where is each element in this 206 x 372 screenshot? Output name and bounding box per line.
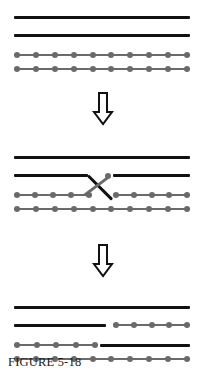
stage-1-paired-homologs-chromatid-3-bead bbox=[71, 52, 77, 58]
figure-caption: FIGURE 5-18 bbox=[8, 355, 81, 370]
stage-2-chiasma-crossover-chromatid-3-bead bbox=[149, 192, 155, 198]
stage-3-recombinant-chromatids-chromatid-4-bead bbox=[184, 356, 190, 362]
stage-3-recombinant-chromatids-chromatid-3-segment-1 bbox=[100, 344, 190, 347]
stage-3-recombinant-chromatids-chromatid-2-bead bbox=[184, 322, 190, 328]
stage-3-recombinant-chromatids-chromatid-2-bead bbox=[131, 322, 137, 328]
stage-2-chiasma-crossover-chromatid-3-bead bbox=[113, 192, 119, 198]
stage-2-chiasma-crossover-chromatid-4-bead bbox=[90, 206, 96, 212]
stage-3-recombinant-chromatids-chromatid-4-bead bbox=[127, 356, 133, 362]
stage-2-chiasma-crossover-chromatid-4-bead bbox=[14, 206, 20, 212]
down-arrow-outline-icon-2 bbox=[92, 244, 114, 278]
stage-1-paired-homologs-chromatid-3-bead bbox=[127, 52, 133, 58]
stage-1-paired-homologs-chromatid-4-bead bbox=[108, 66, 114, 72]
stage-3-recombinant-chromatids-chromatid-4-bead bbox=[90, 356, 96, 362]
stage-2-chiasma-crossover-chromatid-2-segment-1 bbox=[113, 174, 190, 177]
stage-1-paired-homologs-chromatid-4-bead bbox=[14, 66, 20, 72]
stage-3-recombinant-chromatids-chromatid-2-bead bbox=[166, 322, 172, 328]
stage-2-chiasma-crossover-chromatid-4-bead bbox=[52, 206, 58, 212]
stage-1-paired-homologs-chromatid-3-line-0 bbox=[14, 54, 190, 56]
stage-1-paired-homologs-chromatid-3-bead bbox=[52, 52, 58, 58]
panel-stage-2-chiasma-crossover bbox=[0, 140, 206, 232]
stage-3-recombinant-chromatids-chromatid-1-segment-0 bbox=[14, 306, 190, 309]
stage-1-paired-homologs-chromatid-4-bead bbox=[52, 66, 58, 72]
stage-3-recombinant-chromatids-chromatid-3-bead bbox=[14, 342, 20, 348]
stage-1-paired-homologs-chromatid-4-line-0 bbox=[14, 68, 190, 70]
stage-2-chiasma-crossover-chromatid-3-bead bbox=[131, 192, 137, 198]
stage-3-recombinant-chromatids-chromatid-4-bead bbox=[165, 356, 171, 362]
stage-2-chiasma-crossover-chromatid-3-bead bbox=[50, 192, 56, 198]
stage-2-chiasma-crossover-chromatid-4-bead bbox=[165, 206, 171, 212]
down-arrow-outline-icon-1 bbox=[92, 92, 114, 126]
stage-3-recombinant-chromatids-chromatid-4-bead bbox=[108, 356, 114, 362]
stage-3-recombinant-chromatids-chromatid-3-bead bbox=[92, 342, 98, 348]
stage-2-chiasma-crossover-chromatid-4-bead bbox=[184, 206, 190, 212]
stage-2-chiasma-crossover-chromatid-4-bead bbox=[146, 206, 152, 212]
stage-2-chiasma-crossover-chromatid-4-bead bbox=[33, 206, 39, 212]
stage-1-paired-homologs-chromatid-3-bead bbox=[146, 52, 152, 58]
stage-2-chiasma-crossover-chromatid-3-bead bbox=[14, 192, 20, 198]
stage-2-chiasma-crossover-chromatid-3-bead bbox=[32, 192, 38, 198]
stage-1-paired-homologs-chromatid-4-bead bbox=[184, 66, 190, 72]
chiasma-bead-cap bbox=[105, 173, 111, 179]
stage-1-paired-homologs-chromatid-3-bead bbox=[14, 52, 20, 58]
stage-2-chiasma-crossover-chromatid-4-bead bbox=[108, 206, 114, 212]
stage-1-paired-homologs-chromatid-4-bead bbox=[146, 66, 152, 72]
stage-3-recombinant-chromatids-chromatid-2-segment-0 bbox=[14, 324, 106, 327]
stage-2-chiasma-crossover-chromatid-4-bead bbox=[71, 206, 77, 212]
stage-1-paired-homologs-chromatid-2-segment-0 bbox=[14, 34, 190, 37]
stage-3-recombinant-chromatids-chromatid-2-bead bbox=[113, 322, 119, 328]
stage-3-recombinant-chromatids-chromatid-3-bead bbox=[73, 342, 79, 348]
stage-3-recombinant-chromatids-chromatid-4-bead bbox=[146, 356, 152, 362]
stage-1-paired-homologs-chromatid-3-bead bbox=[165, 52, 171, 58]
stage-1-paired-homologs-chromatid-3-bead bbox=[33, 52, 39, 58]
stage-1-paired-homologs-chromatid-4-bead bbox=[165, 66, 171, 72]
stage-2-chiasma-crossover-chromatid-1-segment-0 bbox=[14, 156, 190, 159]
figure-5-18: FIGURE 5-18 bbox=[0, 0, 206, 372]
stage-1-paired-homologs-chromatid-3-bead bbox=[184, 52, 190, 58]
stage-2-chiasma-crossover-chromatid-2-segment-0 bbox=[14, 174, 88, 177]
stage-1-paired-homologs-chromatid-4-bead bbox=[33, 66, 39, 72]
stage-3-recombinant-chromatids-chromatid-2-bead bbox=[149, 322, 155, 328]
stage-1-paired-homologs-chromatid-3-bead bbox=[90, 52, 96, 58]
stage-1-paired-homologs-chromatid-4-bead bbox=[71, 66, 77, 72]
stage-1-paired-homologs-chromatid-4-bead bbox=[127, 66, 133, 72]
panel-stage-1-paired-homologs bbox=[0, 0, 206, 88]
stage-2-chiasma-crossover-chromatid-4-bead bbox=[127, 206, 133, 212]
stage-1-paired-homologs-chromatid-3-bead bbox=[108, 52, 114, 58]
stage-2-chiasma-crossover-chromatid-3-bead bbox=[166, 192, 172, 198]
stage-2-chiasma-crossover-chromatid-3-bead bbox=[184, 192, 190, 198]
stage-3-recombinant-chromatids-chromatid-3-bead bbox=[34, 342, 40, 348]
stage-1-paired-homologs-chromatid-1-segment-0 bbox=[14, 16, 190, 19]
stage-1-paired-homologs-chromatid-4-bead bbox=[90, 66, 96, 72]
stage-2-chiasma-crossover-chromatid-3-bead bbox=[68, 192, 74, 198]
stage-3-recombinant-chromatids-chromatid-3-bead bbox=[53, 342, 59, 348]
stage-2-chiasma-crossover-chromatid-4-line-0 bbox=[14, 208, 190, 210]
panel-stage-3-recombinant-chromatids bbox=[0, 290, 206, 350]
